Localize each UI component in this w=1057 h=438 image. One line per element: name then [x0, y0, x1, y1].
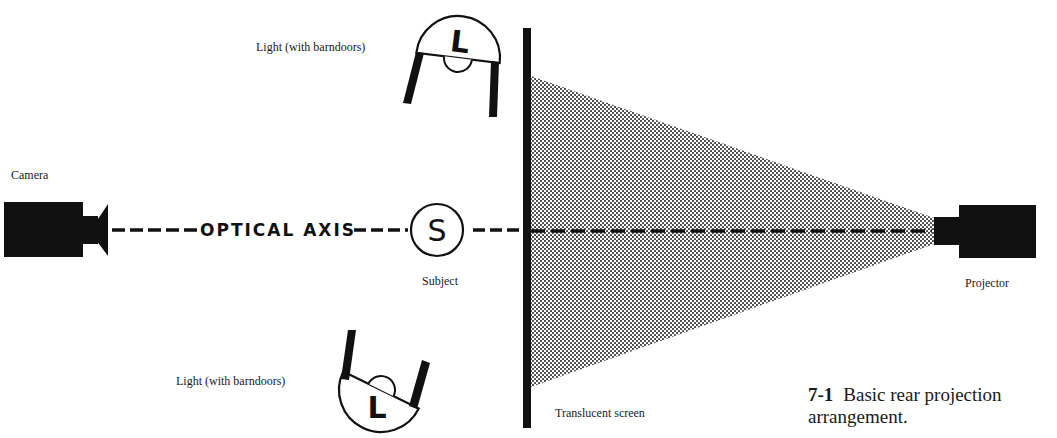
figure-number: 7-1: [808, 384, 833, 405]
subject-icon: S: [411, 204, 463, 256]
camera-icon: [4, 202, 108, 257]
caption-line-1: Basic rear projection: [843, 384, 1001, 405]
subject-label: Subject: [422, 274, 459, 288]
figure-caption: 7-1Basic rear projection arrangement.: [808, 384, 1057, 428]
screen-label: Translucent screen: [555, 406, 645, 420]
projector-label: Projector: [965, 276, 1009, 290]
light-bottom-letter: L: [367, 390, 386, 425]
light-top-label: Light (with barndoors): [256, 40, 365, 54]
barndoor-top-right: [489, 61, 499, 117]
svg-text:S: S: [427, 213, 446, 248]
optical-axis-label: OPTICAL AXIS: [200, 220, 356, 240]
caption-line-2: arrangement.: [808, 406, 1057, 428]
barndoor-bottom-right: [409, 360, 430, 409]
barndoor-bottom-left: [341, 330, 356, 380]
translucent-screen: [523, 28, 531, 428]
projector-icon: [934, 205, 1036, 258]
barndoor-top-left: [403, 52, 424, 104]
light-bottom-label: Light (with barndoors): [176, 374, 285, 388]
camera-label: Camera: [11, 168, 49, 182]
rear-projection-diagram: OPTICAL AXIS S Subject L Light (with bar…: [0, 0, 1057, 438]
